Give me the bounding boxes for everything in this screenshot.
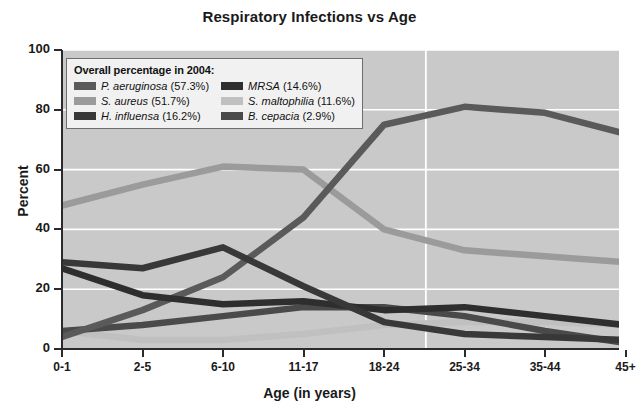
x-axis-tick — [383, 350, 385, 357]
legend-swatch — [74, 82, 96, 90]
y-axis-tick — [54, 49, 62, 51]
x-axis-tick — [61, 350, 63, 357]
legend-box: Overall percentage in 2004: P. aeruginos… — [66, 58, 363, 129]
x-axis-tick — [625, 350, 627, 357]
series-line-mrsa — [62, 268, 619, 325]
legend-item: B. cepacia (2.9%) — [221, 109, 355, 122]
series-line-s-aureus — [62, 167, 619, 263]
legend-swatch — [221, 97, 243, 105]
x-axis-title: Age (in years) — [0, 385, 619, 401]
x-axis-tick-label: 35-44 — [515, 360, 575, 374]
y-axis-title: Percent — [15, 146, 31, 236]
legend-swatch — [221, 82, 243, 90]
legend-label: S. aureus (51.7%) — [101, 95, 190, 107]
x-axis-tick-label: 45+ — [596, 360, 640, 374]
x-axis-tick — [544, 350, 546, 357]
legend-item: MRSA (14.6%) — [221, 79, 355, 92]
legend-label: B. cepacia (2.9%) — [248, 110, 335, 122]
legend-title: Overall percentage in 2004: — [74, 64, 355, 76]
chart-title: Respiratory Infections vs Age — [0, 8, 619, 25]
x-axis-tick — [464, 350, 466, 357]
legend-item: H. influensa (16.2%) — [74, 109, 209, 122]
x-axis-tick-label: 2-5 — [113, 360, 173, 374]
x-axis-tick-label: 6-10 — [193, 360, 253, 374]
y-axis-line — [61, 50, 63, 350]
legend-item: S. maltophilia (11.6%) — [221, 94, 355, 107]
x-axis-tick-label: 18-24 — [354, 360, 414, 374]
x-axis-tick-label: 25-34 — [435, 360, 495, 374]
series-lines — [62, 107, 619, 343]
legend-swatch — [74, 97, 96, 105]
legend-label: P. aeruginosa (57.3%) — [101, 80, 209, 92]
x-axis-tick — [142, 350, 144, 357]
legend-item: S. aureus (51.7%) — [74, 94, 209, 107]
y-axis-tick-label: 20 — [0, 280, 50, 295]
legend-column-left: P. aeruginosa (57.3%)S. aureus (51.7%)H.… — [74, 79, 209, 122]
legend-swatch — [74, 112, 96, 120]
legend-item: P. aeruginosa (57.3%) — [74, 79, 209, 92]
y-axis-tick-label: 80 — [0, 101, 50, 116]
legend-label: MRSA (14.6%) — [248, 80, 321, 92]
y-axis-tick — [54, 228, 62, 230]
x-axis-tick — [222, 350, 224, 357]
x-axis-tick-label: 0-1 — [32, 360, 92, 374]
x-axis-tick-label: 11-17 — [274, 360, 334, 374]
x-axis-tick — [303, 350, 305, 357]
legend-label: H. influensa (16.2%) — [101, 110, 201, 122]
y-axis-tick-label: 100 — [0, 41, 50, 56]
x-axis-line — [61, 348, 619, 350]
y-axis-tick-label: 0 — [0, 340, 50, 355]
legend-swatch — [221, 112, 243, 120]
y-axis-tick — [54, 109, 62, 111]
legend-label: S. maltophilia (11.6%) — [248, 95, 355, 107]
y-axis-tick — [54, 288, 62, 290]
legend-column-right: MRSA (14.6%)S. maltophilia (11.6%)B. cep… — [221, 79, 355, 122]
y-axis-tick — [54, 169, 62, 171]
